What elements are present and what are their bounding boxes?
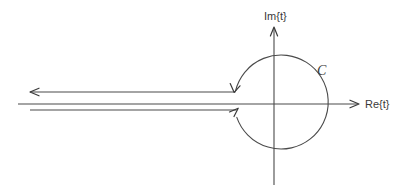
upper-branch-entry-arrow-icon bbox=[230, 84, 240, 93]
contour-diagram-figure: Re{t} Im{t} C bbox=[0, 0, 403, 194]
lower-branch-exit-arrow-icon bbox=[230, 108, 239, 116]
contour-circle-group bbox=[236, 55, 329, 149]
contour-circle-arc bbox=[236, 55, 329, 149]
upper-contour-branch-group bbox=[30, 84, 240, 96]
imaginary-axis-label: Im{t} bbox=[264, 10, 287, 22]
real-axis-label: Re{t} bbox=[365, 98, 390, 110]
lower-contour-branch-group bbox=[30, 108, 238, 116]
real-axis-group: Re{t} bbox=[18, 98, 390, 110]
imaginary-axis-group: Im{t} bbox=[264, 10, 287, 185]
contour-plot-canvas: Re{t} Im{t} C bbox=[0, 0, 403, 194]
contour-label-c: C bbox=[317, 63, 327, 78]
